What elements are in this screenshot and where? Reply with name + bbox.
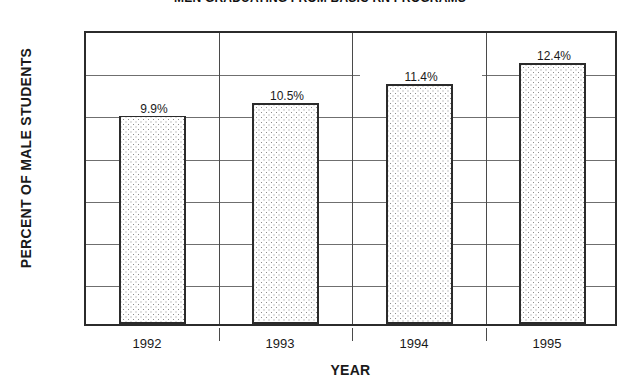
gridline-vertical (486, 33, 487, 324)
x-tick-label-1992: 1992 (77, 336, 217, 351)
x-tick-label-1995: 1995 (477, 336, 617, 351)
y-axis-title: PERCENT OF MALE STUDENTS (18, 33, 34, 283)
bar-value-label: 9.9% (93, 102, 215, 116)
x-axis-title: YEAR (84, 362, 617, 378)
bar-value-label: 11.4% (360, 70, 482, 84)
x-tick-label-1993: 1993 (210, 336, 350, 351)
bar-1994[interactable] (386, 84, 453, 324)
bar-value-label: 12.4% (493, 49, 615, 63)
bar-1992[interactable] (119, 115, 186, 324)
x-tick-label-1994: 1994 (344, 336, 484, 351)
chart-title: MEN GRADUATING FROM BASIC RN PROGRAMS (0, 0, 640, 5)
bar-1995[interactable] (519, 63, 586, 324)
gridline-vertical (219, 33, 220, 324)
bar-value-label: 10.5% (226, 89, 348, 103)
plot-area: 14% 12% 10% 8% 6% 4% 2% 0% 9.9% 10.5% 11… (84, 31, 617, 326)
gridline-vertical (352, 33, 353, 324)
bar-1993[interactable] (252, 103, 319, 324)
